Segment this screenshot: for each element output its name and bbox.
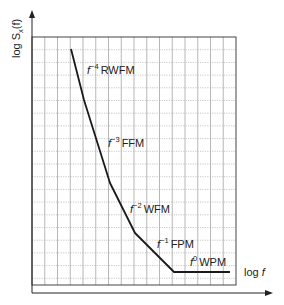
- x-axis-arrow-icon: [265, 290, 273, 296]
- y-axis-arrow-icon: [29, 10, 35, 18]
- x-axis-label: log f: [244, 266, 266, 278]
- noise-curve: [71, 49, 230, 272]
- power-law-noise-diagram: log Sx(f) log f f−4RWFM f−3FFM f−2WFM f−…: [0, 0, 284, 305]
- label-wfm: f−2WFM: [130, 201, 170, 215]
- label-rwfm: f−4RWFM: [87, 62, 135, 76]
- y-axis-label: log Sx(f): [10, 19, 25, 58]
- label-ffm: f−3FFM: [108, 135, 144, 149]
- label-fpm: f−1FPM: [157, 236, 194, 250]
